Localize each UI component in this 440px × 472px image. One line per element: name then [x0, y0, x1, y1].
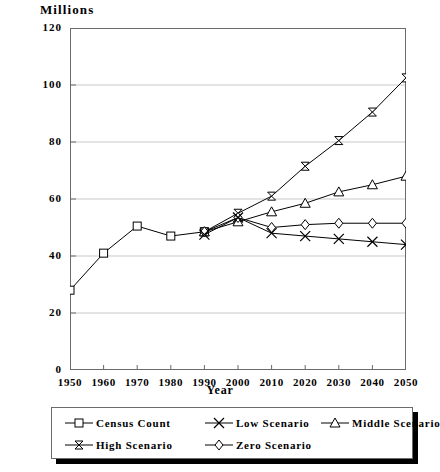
legend-marker: [64, 437, 94, 453]
x-axis-title: Year: [0, 383, 440, 398]
data-point-marker: [401, 171, 406, 180]
data-point-marker: [100, 249, 108, 257]
legend-item-middle-scenario[interactable]: Middle Scenario: [320, 415, 440, 431]
series-zero-scenario: [200, 213, 406, 237]
bowtie-marker-icon: [64, 437, 94, 453]
data-point-marker: [268, 192, 276, 200]
legend-marker: [64, 415, 94, 431]
data-point-marker: [75, 419, 83, 427]
square-marker-icon: [64, 415, 94, 431]
series-high-scenario: [200, 74, 406, 236]
diamond-marker-icon: [204, 437, 234, 453]
data-point-marker: [368, 218, 376, 228]
legend-item-zero-scenario[interactable]: Zero Scenario: [204, 437, 312, 453]
legend-row: High ScenarioZero Scenario: [52, 434, 412, 456]
plot-area: [70, 28, 406, 370]
series-line: [70, 226, 204, 290]
triangle-marker-icon: [320, 415, 350, 431]
y-axis-title: Millions: [40, 2, 94, 18]
legend-item-high-scenario[interactable]: High Scenario: [64, 437, 173, 453]
y-tick-label: 80: [18, 135, 62, 147]
series-line: [204, 78, 406, 232]
legend-row: Census CountLow ScenarioMiddle Scenario: [52, 412, 412, 434]
legend-item-census-count[interactable]: Census Count: [64, 415, 171, 431]
y-tick-label: 100: [18, 78, 62, 90]
data-point-marker: [215, 440, 223, 450]
legend-marker: [320, 415, 350, 431]
data-point-marker: [402, 74, 406, 82]
y-tick-label: 60: [18, 192, 62, 204]
legend-marker: [204, 437, 234, 453]
y-tick-label: 40: [18, 249, 62, 261]
series-low-scenario: [199, 213, 406, 250]
legend-item-low-scenario[interactable]: Low Scenario: [204, 415, 309, 431]
data-point-marker: [301, 162, 309, 170]
data-point-marker: [300, 198, 310, 207]
legend-label: High Scenario: [96, 439, 173, 451]
series-census-count: [70, 222, 208, 294]
chart-figure: Millions 020406080100120 195019601970198…: [0, 0, 440, 472]
legend-label: Census Count: [96, 417, 171, 429]
data-point-marker: [70, 286, 74, 294]
legend-label: Zero Scenario: [236, 439, 312, 451]
data-point-marker: [402, 218, 406, 228]
data-point-marker: [167, 232, 175, 240]
y-tick-label: 20: [18, 306, 62, 318]
data-point-marker: [368, 108, 376, 116]
chart-legend: Census CountLow ScenarioMiddle ScenarioH…: [51, 407, 413, 459]
data-point-marker: [335, 137, 343, 145]
data-point-marker: [301, 220, 309, 230]
cross-marker-icon: [204, 415, 234, 431]
data-point-marker: [133, 222, 141, 230]
data-point-marker: [335, 218, 343, 228]
legend-label: Middle Scenario: [352, 417, 440, 429]
legend-label: Low Scenario: [236, 417, 309, 429]
y-tick-label: 0: [18, 363, 62, 375]
plot-svg: [70, 28, 406, 370]
legend-marker: [204, 415, 234, 431]
y-tick-label: 120: [18, 21, 62, 33]
